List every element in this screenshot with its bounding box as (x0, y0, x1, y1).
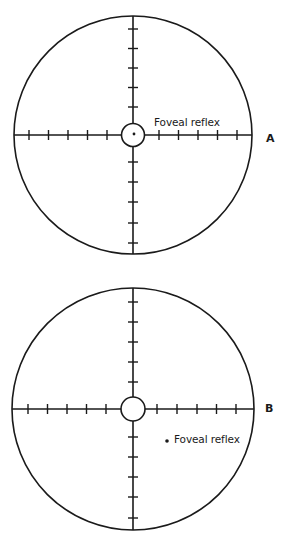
panel-b-foveal-reflex-label: Foveal reflex (174, 433, 240, 445)
diagram-canvas (0, 0, 286, 545)
panel-a-center-ring (122, 124, 145, 147)
panel-a-foveal-reflex-dot (133, 133, 136, 136)
panel-b-letter: B (265, 402, 273, 415)
panel-b-reticle (12, 288, 254, 530)
panel-a-foveal-reflex-label: Foveal reflex (154, 116, 220, 128)
panel-b-center-ring (121, 397, 145, 421)
panel-b-foveal-reflex-dot (165, 439, 169, 443)
panel-a-reticle (14, 16, 252, 254)
panel-b-ticks (28, 302, 236, 518)
panel-a-letter: A (266, 132, 275, 145)
